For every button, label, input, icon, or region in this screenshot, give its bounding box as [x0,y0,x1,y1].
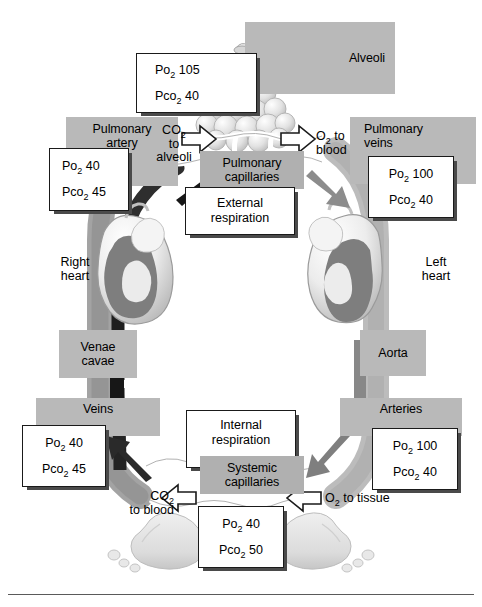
pulmonary-veins-pco2-label: Pco [389,193,411,207]
alveoli-po2-value: 105 [179,63,200,77]
value-box-veins: Po2 40 Pco2 45 [22,425,106,487]
label-venae-cavae-line2: cavae [81,354,116,368]
arteries-pco2-value: 40 [423,465,437,479]
arteries-pco2-subscript: 2 [415,471,420,481]
arrow-label-co2-to-alveoli: CO2 to alveoli [151,124,197,165]
pulmonary-artery-po2-subscript: 2 [77,166,82,176]
blood-flow-arrow-pulmonary-vein [306,170,350,208]
veins-po2-subscript: 2 [60,442,65,452]
alveoli-pco2-label: Pco [155,89,177,103]
internal-respiration-line1: Internal [220,418,262,433]
label-right-heart-line1: Right [42,255,108,269]
tissues-pco2-subscript: 2 [241,549,246,559]
arteries-po2-value: 100 [416,439,437,453]
arrow-label-o2-to-blood: O2 to blood [316,130,347,157]
pulmonary-artery-po2-value: 40 [86,159,100,173]
label-left-heart-line2: heart [406,269,466,283]
label-left-heart: Left heart [406,255,466,283]
tissues-po2-label: Po [222,517,237,531]
label-pulmonary-veins-line2: veins [364,136,423,150]
footer-divider-rule [8,594,474,595]
label-pulmonary-artery-line1: Pulmonary [93,122,152,136]
value-box-tissues: Po2 40 Pco2 50 [198,506,284,568]
value-box-arteries: Po2 100 Pco2 40 [372,428,458,490]
pulmonary-veins-pco2-subscript: 2 [411,199,416,209]
pulmonary-artery-pco2-label: Pco [62,185,84,199]
value-box-alveoli: Po2 105 Pco2 40 [136,53,257,113]
label-right-heart: Right heart [42,255,108,283]
label-pulmonary-capillaries-line2: capillaries [223,170,282,184]
co2-to-alveoli-gas: CO [162,123,181,137]
veins-pco2-value: 45 [72,462,86,476]
external-respiration-line2: respiration [211,211,269,226]
right-foot-illustration [278,513,374,572]
alveoli-po2-subscript: 2 [170,69,175,79]
veins-pco2-subscript: 2 [64,468,69,478]
internal-respiration-line2: respiration [212,433,270,448]
co2-to-alveoli-target: alveoli [151,151,197,165]
label-veins: Veins [83,402,113,416]
label-pulmonary-veins-line1: Pulmonary [364,122,423,136]
veins-pco2-label: Pco [42,462,64,476]
plate-venae-cavae: Venae cavae [59,330,137,378]
blood-flow-arrow-arteries-down [306,432,350,478]
co2-to-blood-gas: CO [150,489,169,503]
label-systemic-capillaries-line2: capillaries [225,475,279,489]
o2-to-blood-gas: O [316,129,326,143]
tissues-po2-value: 40 [246,517,260,531]
label-venae-cavae-line1: Venae [81,340,116,354]
plate-pulmonary-capillaries: Pulmonary capillaries [200,151,304,189]
label-aorta: Aorta [378,346,407,360]
value-box-pulmonary-veins: Po2 100 Pco2 40 [368,156,454,218]
alveoli-pco2-value: 40 [185,89,199,103]
pulmonary-veins-po2-subscript: 2 [404,173,409,183]
external-respiration-line1: External [217,196,263,211]
pulmonary-artery-po2-label: Po [62,159,77,173]
label-alveoli: Alveoli [349,51,385,65]
label-arteries: Arteries [380,402,422,416]
pulmonary-artery-pco2-subscript: 2 [84,192,89,202]
label-pulmonary-capillaries-line1: Pulmonary [223,156,282,170]
arteries-pco2-label: Pco [393,465,415,479]
label-left-heart-line1: Left [406,255,466,269]
o2-to-blood-to: to [331,129,345,143]
o2-to-blood-target: blood [316,144,347,158]
label-systemic-capillaries-line1: Systemic [225,461,279,475]
veins-po2-label: Po [45,436,60,450]
respiration-diagram-figure: Alveoli Pulmonary artery Pulmonary veins… [0,0,482,607]
plate-alveoli: Alveoli [245,22,395,94]
o2-to-tissue-gas: O [325,491,335,505]
arteries-po2-label: Po [393,439,408,453]
co2-to-alveoli-subscript: 2 [181,130,186,140]
left-foot-illustration [108,513,204,572]
tissues-po2-subscript: 2 [237,523,242,533]
pulmonary-veins-po2-label: Po [389,167,404,181]
value-box-pulmonary-artery: Po2 40 Pco2 45 [49,148,129,211]
arteries-po2-subscript: 2 [408,445,413,455]
co2-to-alveoli-to: to [151,138,197,152]
alveoli-pco2-subscript: 2 [177,95,182,105]
alveoli-po2-label: Po [155,63,170,77]
value-box-external-respiration: External respiration [185,187,295,235]
co2-to-blood-target: to blood [122,504,174,518]
pulmonary-artery-pco2-value: 45 [92,185,106,199]
arrow-label-co2-to-blood: CO2 to blood [122,490,174,517]
pulmonary-veins-pco2-value: 40 [419,193,433,207]
veins-po2-value: 40 [69,436,83,450]
plate-systemic-capillaries: Systemic capillaries [200,456,304,494]
tissues-pco2-value: 50 [249,543,263,557]
arrow-label-o2-to-tissue: O2 to tissue [325,492,390,506]
pulmonary-veins-po2-value: 100 [412,167,433,181]
plate-aorta: Aorta [360,330,426,376]
tissues-pco2-label: Pco [219,543,241,557]
label-right-heart-line2: heart [42,269,108,283]
o2-to-tissue-target: to tissue [340,491,390,505]
